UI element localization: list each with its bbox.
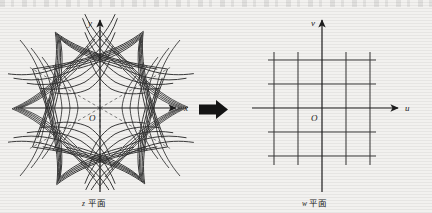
w-axis-v-label: v <box>311 18 315 28</box>
w-plane-panel: u v O w 平面 <box>252 18 410 208</box>
w-plane-caption-cjk: 平面 <box>309 198 327 208</box>
z-plane-caption-cjk: 平面 <box>88 198 106 208</box>
z-plane-caption-latin: z <box>81 199 85 208</box>
conformal-mapping-figure: x y O z 平面 u v O w 平面 <box>0 0 432 213</box>
w-origin-label: O <box>311 113 318 123</box>
z-plane-panel: x y O z 平面 <box>0 0 212 213</box>
z-origin-label: O <box>89 113 96 123</box>
w-plane-caption-latin: w <box>302 199 307 208</box>
w-axis-u-label: u <box>405 103 410 113</box>
z-axis-x-label: x <box>183 103 188 113</box>
curve-family-u <box>0 0 212 213</box>
z-axis-y-label: y <box>87 18 92 28</box>
transform-arrow <box>199 100 228 119</box>
